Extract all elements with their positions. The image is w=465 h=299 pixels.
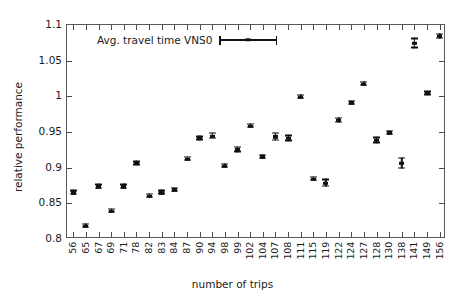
data-point-marker — [311, 177, 316, 180]
x-tick-label: 127 — [358, 242, 369, 260]
data-point-marker — [349, 101, 354, 104]
y-tick-label: 0.8 — [45, 232, 62, 244]
x-tick-mark — [174, 232, 175, 237]
x-tick-label: 111 — [295, 242, 306, 260]
y-axis-title: relative performance — [12, 62, 24, 212]
x-tick-mark — [73, 25, 74, 30]
data-point — [358, 84, 369, 85]
x-tick-mark — [263, 25, 264, 30]
data-point-marker — [134, 162, 139, 165]
y-tick-label: 1.05 — [39, 54, 62, 66]
x-tick-mark — [275, 232, 276, 237]
x-tick-mark — [99, 25, 100, 30]
x-tick-label: 122 — [333, 242, 344, 260]
x-tick-mark — [351, 25, 352, 30]
x-tick-mark — [402, 232, 403, 237]
data-point-marker — [336, 119, 341, 122]
data-point — [232, 149, 243, 150]
y-tick-mark — [67, 96, 72, 97]
x-tick-mark — [414, 25, 415, 30]
data-point — [106, 211, 117, 212]
x-tick-mark — [301, 232, 302, 237]
data-point — [346, 102, 357, 103]
data-point — [131, 163, 142, 164]
data-point — [283, 138, 294, 139]
y-tick-label: 0.9 — [45, 161, 62, 173]
x-tick-mark — [364, 25, 365, 30]
x-tick-label: 130 — [383, 242, 394, 260]
y-tick-mark — [67, 61, 72, 62]
data-point — [144, 196, 155, 197]
x-tick-label: 107 — [269, 242, 280, 260]
data-point-marker — [96, 185, 101, 188]
x-tick-mark — [427, 25, 428, 30]
x-tick-mark — [389, 25, 390, 30]
x-tick-mark — [149, 25, 150, 30]
x-tick-mark — [275, 25, 276, 30]
y-tick-label: 1.1 — [45, 18, 62, 30]
x-tick-label: 94 — [206, 242, 217, 254]
error-bar-cap-bottom — [272, 139, 279, 140]
x-tick-mark — [250, 232, 251, 237]
x-tick-label: 69 — [105, 242, 116, 254]
x-tick-label: 65 — [80, 242, 91, 254]
data-point-marker — [387, 131, 392, 134]
x-tick-mark — [313, 25, 314, 30]
data-point-marker — [109, 209, 114, 212]
x-tick-label: 82 — [143, 242, 154, 254]
x-tick-mark — [339, 232, 340, 237]
data-point-marker — [121, 185, 126, 188]
x-tick-label: 141 — [408, 242, 419, 260]
x-tick-label: 99 — [232, 242, 243, 254]
data-point — [308, 179, 319, 180]
y-tick-mark — [67, 203, 72, 204]
x-tick-mark — [427, 232, 428, 237]
x-tick-label: 83 — [156, 242, 167, 254]
x-tick-mark — [351, 232, 352, 237]
data-point-marker — [159, 191, 164, 194]
x-tick-mark — [238, 25, 239, 30]
y-tick-mark — [67, 132, 72, 133]
x-tick-mark — [136, 25, 137, 30]
data-point — [257, 156, 268, 157]
x-tick-mark — [111, 25, 112, 30]
data-point — [270, 136, 281, 137]
data-point — [207, 136, 218, 137]
x-tick-label: 156 — [434, 242, 445, 260]
x-axis-title: number of trips — [0, 278, 465, 290]
data-point-marker — [210, 135, 215, 138]
data-point — [434, 36, 445, 37]
data-point-marker — [399, 162, 404, 165]
x-tick-label: 149 — [421, 242, 432, 260]
x-tick-mark — [111, 232, 112, 237]
x-tick-mark — [174, 25, 175, 30]
data-point-marker — [197, 137, 202, 140]
x-tick-mark — [136, 232, 137, 237]
x-tick-mark — [73, 232, 74, 237]
data-point — [384, 132, 395, 133]
y-tick-mark — [439, 168, 444, 169]
data-point-marker — [425, 92, 430, 95]
x-tick-label: 67 — [93, 242, 104, 254]
data-point-marker — [286, 137, 291, 140]
legend-entry-label: Avg. travel time VNS0 — [97, 34, 212, 46]
x-tick-label: 104 — [257, 242, 268, 260]
data-point-marker — [235, 148, 240, 151]
x-tick-mark — [339, 25, 340, 30]
x-tick-mark — [124, 232, 125, 237]
data-point — [245, 126, 256, 127]
y-tick-label: 0.85 — [39, 196, 62, 208]
x-tick-label: 138 — [396, 242, 407, 260]
data-point-marker — [323, 182, 328, 185]
data-point — [118, 186, 129, 187]
data-point-marker — [437, 35, 442, 38]
error-bar-cap-bottom — [398, 167, 405, 168]
x-tick-mark — [364, 232, 365, 237]
x-tick-label: 87 — [181, 242, 192, 254]
x-tick-label: 124 — [345, 242, 356, 260]
x-tick-mark — [440, 25, 441, 30]
data-point — [422, 93, 433, 94]
x-tick-mark — [212, 232, 213, 237]
chart-figure: 0.80.850.90.9511.051.1 relative performa… — [0, 0, 465, 299]
error-bar-cap-bottom — [411, 47, 418, 48]
